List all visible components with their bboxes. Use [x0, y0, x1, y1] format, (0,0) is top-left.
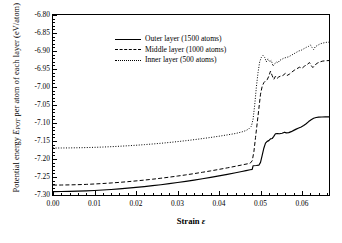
legend-item-inner: Inner layer (500 atoms)	[115, 55, 226, 66]
y-tick-minor	[52, 145, 55, 146]
y-tick-minor	[52, 44, 55, 45]
x-tick-minor	[119, 193, 120, 196]
x-tick-minor	[269, 193, 270, 196]
x-tick-major	[219, 191, 220, 196]
x-tick-minor	[236, 193, 237, 196]
y-tick-minor	[52, 94, 55, 95]
y-tick-minor	[52, 26, 55, 27]
x-tick-minor	[194, 193, 195, 196]
legend-key-dotted-icon	[115, 56, 141, 64]
figure: Potential energy EPOT per atom of each l…	[0, 0, 342, 243]
y-tick-label: -7.20	[0, 155, 50, 162]
y-tick-minor	[52, 22, 55, 23]
y-tick-major	[52, 123, 57, 124]
y-tick-minor	[52, 47, 55, 48]
x-tick-minor	[161, 193, 162, 196]
y-tick-minor	[52, 65, 55, 66]
legend-item-outer: Outer layer (1500 atoms)	[115, 34, 226, 45]
y-tick-major	[52, 69, 57, 70]
y-tick-major	[52, 87, 57, 88]
y-tick-minor	[52, 83, 55, 84]
x-tick-minor	[103, 193, 104, 196]
series-line-0	[53, 117, 329, 192]
y-tick-minor	[52, 148, 55, 149]
y-tick-minor	[52, 127, 55, 128]
y-tick-minor	[52, 170, 55, 171]
x-axis-title: Strain ε	[52, 216, 330, 226]
y-tick-minor	[52, 58, 55, 59]
x-tick-minor	[86, 193, 87, 196]
x-tick-minor	[70, 193, 71, 196]
x-tick-minor	[252, 193, 253, 196]
x-tick-label: 0.05	[241, 200, 281, 207]
y-tick-major	[52, 177, 57, 178]
y-axis-title-symbol: E	[12, 130, 21, 135]
y-tick-minor	[52, 73, 55, 74]
x-tick-minor	[319, 193, 320, 196]
y-tick-minor	[52, 130, 55, 131]
y-tick-minor	[52, 184, 55, 185]
y-tick-major	[52, 33, 57, 34]
x-tick-label: 0.03	[158, 200, 198, 207]
y-tick-minor	[52, 19, 55, 20]
y-tick-minor	[52, 91, 55, 92]
y-tick-label: -7.05	[0, 101, 50, 108]
y-tick-label: -7.25	[0, 173, 50, 180]
y-tick-label: -7.30	[0, 191, 50, 198]
x-axis-title-text: Strain	[177, 216, 202, 226]
x-tick-major	[302, 191, 303, 196]
y-tick-minor	[52, 101, 55, 102]
y-tick-minor	[52, 173, 55, 174]
x-tick-major	[178, 191, 179, 196]
x-tick-minor	[277, 193, 278, 196]
legend-label-middle: Middle layer (1000 atoms)	[145, 45, 226, 56]
legend-key-solid-icon	[115, 35, 141, 43]
y-tick-minor	[52, 40, 55, 41]
x-tick-minor	[285, 193, 286, 196]
x-tick-label: 0.02	[116, 200, 156, 207]
x-tick-minor	[244, 193, 245, 196]
y-tick-minor	[52, 62, 55, 63]
x-tick-minor	[128, 193, 129, 196]
x-axis-title-symbol: ε	[202, 216, 206, 226]
y-tick-label: -6.80	[0, 11, 50, 18]
x-tick-minor	[61, 193, 62, 196]
plot-area: Outer layer (1500 atoms) Middle layer (1…	[52, 14, 330, 196]
y-tick-minor	[52, 152, 55, 153]
y-tick-minor	[52, 80, 55, 81]
x-tick-minor	[294, 193, 295, 196]
x-tick-major	[53, 191, 54, 196]
legend-item-middle: Middle layer (1000 atoms)	[115, 45, 226, 56]
y-tick-minor	[52, 109, 55, 110]
x-tick-label: 0.01	[75, 200, 115, 207]
x-tick-label: 0.04	[199, 200, 239, 207]
x-tick-minor	[186, 193, 187, 196]
x-tick-minor	[327, 193, 328, 196]
legend-label-inner: Inner layer (500 atoms)	[145, 55, 216, 66]
y-tick-major	[52, 15, 57, 16]
y-tick-label: -7.00	[0, 83, 50, 90]
x-tick-minor	[78, 193, 79, 196]
x-tick-label: 0.06	[282, 200, 322, 207]
y-tick-major	[52, 159, 57, 160]
x-tick-label: 0.00	[33, 200, 73, 207]
y-tick-minor	[52, 116, 55, 117]
y-tick-label: -6.95	[0, 65, 50, 72]
legend-label-outer: Outer layer (1500 atoms)	[145, 34, 222, 45]
x-tick-minor	[227, 193, 228, 196]
x-tick-minor	[211, 193, 212, 196]
y-tick-minor	[52, 98, 55, 99]
x-tick-minor	[144, 193, 145, 196]
x-tick-minor	[310, 193, 311, 196]
legend: Outer layer (1500 atoms) Middle layer (1…	[115, 34, 226, 66]
y-tick-minor	[52, 163, 55, 164]
y-tick-label: -7.15	[0, 137, 50, 144]
x-tick-minor	[153, 193, 154, 196]
y-tick-minor	[52, 119, 55, 120]
y-tick-minor	[52, 134, 55, 135]
y-tick-minor	[52, 155, 55, 156]
y-tick-minor	[52, 37, 55, 38]
x-tick-minor	[202, 193, 203, 196]
y-tick-major	[52, 105, 57, 106]
x-tick-minor	[169, 193, 170, 196]
